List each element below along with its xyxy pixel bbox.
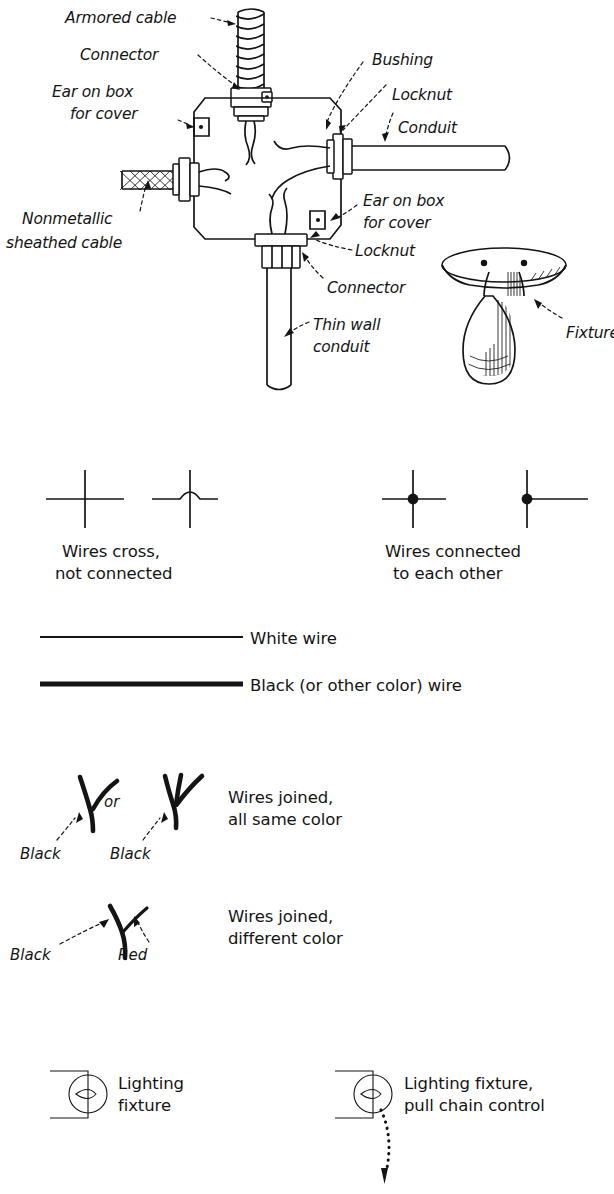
- caption-wires-cross-line1: Wires cross,: [62, 542, 160, 561]
- caption-wires-connected-line2: to each other: [393, 564, 503, 583]
- leg-label-black-right: Black: [110, 845, 152, 863]
- splice-leaders-different-color: [60, 916, 149, 944]
- caption-different-color-line1: Wires joined,: [228, 907, 333, 926]
- symbol-same-color-splice-icon: [80, 775, 202, 831]
- caption-pull-chain-line1: Lighting fixture,: [404, 1074, 533, 1093]
- caption-same-color-line1: Wires joined,: [228, 788, 333, 807]
- symbol-plain-crossover-icon: [46, 470, 124, 528]
- symbol-tee-dot-icon: [522, 470, 588, 528]
- label-or-conjunction: or: [104, 793, 120, 811]
- caption-lighting-fixture-line1: Lighting: [118, 1074, 184, 1093]
- caption-pull-chain-line2: pull chain control: [404, 1096, 545, 1115]
- label-black-wire: Black (or other color) wire: [250, 676, 462, 695]
- caption-wires-connected-line1: Wires connected: [385, 542, 521, 561]
- caption-wires-cross-line2: not connected: [55, 564, 172, 583]
- symbol-lighting-fixture-pull-chain-icon: [335, 1071, 392, 1184]
- leg-label-black-left: Black: [20, 845, 62, 863]
- caption-same-color-line2: all same color: [228, 810, 342, 829]
- symbol-four-way-dot-icon: [382, 470, 446, 528]
- caption-different-color-line2: different color: [228, 929, 343, 948]
- splice-leaders-same-color: [57, 812, 168, 840]
- leg-label-black-dc: Black: [10, 946, 52, 964]
- leg-label-red-dc: Red: [118, 946, 148, 964]
- caption-lighting-fixture-line2: fixture: [118, 1096, 171, 1115]
- figure-sheet: Armored cable Connector Ear on box for c…: [0, 0, 614, 1194]
- label-white-wire: White wire: [250, 629, 337, 648]
- symbol-lighting-fixture-icon: [50, 1071, 107, 1118]
- symbol-legend: Wires cross, not connected Wires connect…: [0, 0, 614, 1194]
- symbol-hop-crossover-icon: [152, 470, 218, 528]
